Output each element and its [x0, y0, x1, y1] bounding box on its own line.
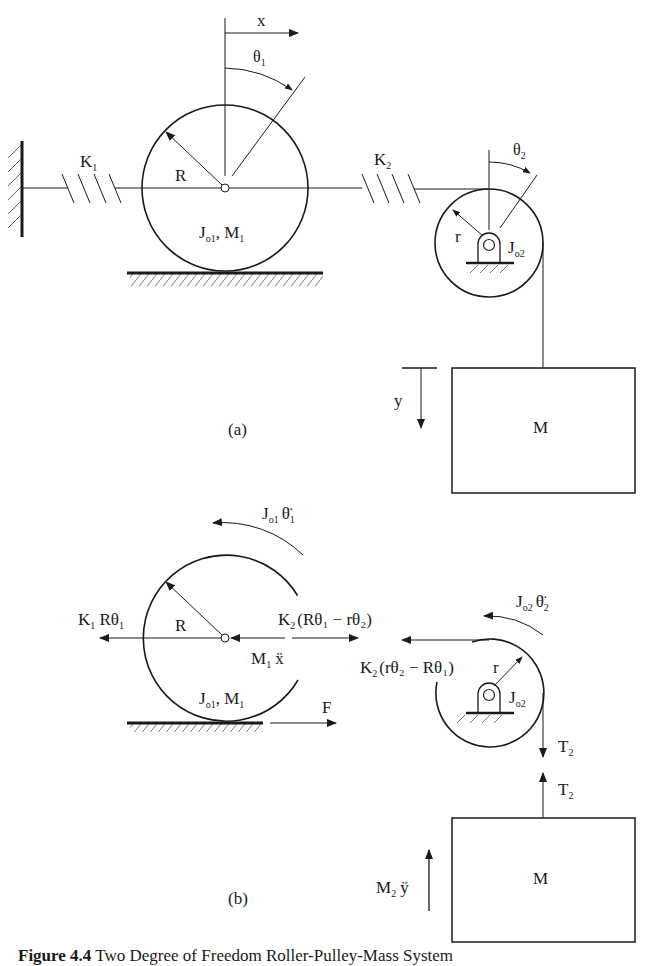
svg-text:M1ẍ: M1ẍ: [251, 649, 284, 670]
svg-text:y: y: [394, 391, 403, 410]
part-b: [100, 523, 635, 942]
y-coordinate-arrow: [402, 368, 437, 428]
svg-text:K2(rθ₂ − Rθ₁): K2(rθ₂ − Rθ₁): [360, 658, 454, 679]
svg-text:θ1: θ1: [253, 48, 266, 68]
svg-text:Jo2θ̈2: Jo2θ̈2: [516, 592, 549, 613]
roller-1: [142, 18, 362, 271]
svg-text:Jo1, M1: Jo1, M1: [199, 689, 244, 710]
part-b-labels: Jo1θ̈1 K1 Rθ1 R K2(Rθ₁ − rθ₂) M1ẍ Jo1, M…: [78, 504, 573, 908]
spring-k1: [22, 174, 143, 203]
svg-text:F: F: [322, 698, 331, 717]
ground-1: [127, 273, 323, 286]
svg-text:K1: K1: [80, 152, 97, 173]
figure-number: Figure 4.4: [18, 946, 91, 965]
spring-k2: [362, 174, 489, 203]
ground-2: [127, 723, 336, 732]
figure-caption: Figure 4.4 Two Degree of Freedom Roller-…: [18, 946, 453, 966]
svg-text:r: r: [493, 658, 499, 677]
svg-text:θ2: θ2: [513, 141, 526, 161]
svg-text:R: R: [175, 616, 187, 635]
pulley-2-fbd: [402, 616, 544, 757]
svg-text:(a): (a): [228, 420, 247, 439]
svg-text:x: x: [257, 11, 266, 30]
pulley-2: [435, 150, 543, 368]
svg-text:K2(Rθ₁ − rθ₂): K2(Rθ₁ − rθ₂): [278, 610, 372, 631]
svg-text:R: R: [175, 166, 187, 185]
svg-text:T2: T2: [558, 780, 573, 801]
svg-text:Jo2: Jo2: [508, 238, 525, 259]
fixed-wall: [8, 141, 22, 237]
svg-text:K1 Rθ1: K1 Rθ1: [78, 610, 124, 631]
svg-text:K2: K2: [374, 150, 391, 171]
figure-title: Two Degree of Freedom Roller-Pulley-Mass…: [95, 946, 453, 965]
svg-text:(b): (b): [228, 889, 248, 908]
svg-text:r: r: [455, 227, 461, 246]
svg-text:M: M: [533, 869, 548, 888]
svg-text:M2ÿ: M2ÿ: [376, 878, 409, 899]
svg-text:T2: T2: [558, 737, 573, 758]
svg-text:Jo2: Jo2: [509, 688, 526, 709]
svg-text:M: M: [533, 418, 548, 437]
svg-text:Jo1, M1: Jo1, M1: [199, 223, 244, 244]
svg-text:Jo1θ̈1: Jo1θ̈1: [262, 504, 295, 525]
